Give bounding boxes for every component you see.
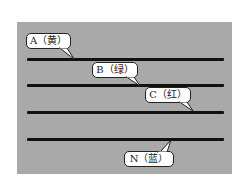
callout-a-tail [57, 47, 77, 61]
callout-n-label: N（蓝） [130, 152, 169, 166]
callout-b-tail [124, 76, 144, 88]
callout-n-tail [155, 139, 175, 153]
callout-c-label: C（红） [149, 88, 187, 102]
diagram-panel: A（黄） B（绿） C（红） N（蓝） [17, 22, 232, 174]
callout-b-label: B（绿） [96, 63, 133, 77]
wire-n [27, 138, 224, 141]
callout-a-label: A（黄） [30, 34, 67, 48]
callout-c-tail [177, 101, 197, 113]
